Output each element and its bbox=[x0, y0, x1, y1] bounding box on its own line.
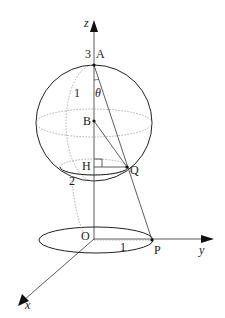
x-axis bbox=[24, 239, 94, 300]
label-q: Q bbox=[130, 163, 139, 177]
point-b bbox=[92, 119, 95, 122]
point-p bbox=[150, 238, 153, 241]
right-angle-mark bbox=[94, 159, 102, 167]
label-b: B bbox=[83, 114, 91, 128]
base-circle bbox=[39, 227, 153, 253]
label-o: O bbox=[81, 229, 90, 243]
y-axis-arrow-icon bbox=[201, 235, 214, 243]
line-ap bbox=[94, 65, 152, 240]
label-1-radius: 1 bbox=[74, 86, 80, 100]
label-p: P bbox=[154, 243, 161, 257]
label-h: H bbox=[82, 159, 91, 173]
line-bq bbox=[94, 121, 127, 167]
label-2: 2 bbox=[69, 174, 75, 188]
x-axis-label: x bbox=[24, 298, 31, 312]
label-1-base: 1 bbox=[120, 240, 126, 254]
z-axis-arrow-icon bbox=[90, 20, 98, 32]
label-a: A bbox=[96, 47, 105, 61]
label-theta: θ bbox=[95, 86, 101, 100]
sphere-diagram: z y x 3 A 1 θ B H Q 2 O 1 P bbox=[0, 0, 225, 318]
z-axis-label: z bbox=[83, 16, 89, 30]
point-a bbox=[92, 63, 95, 66]
y-axis-label: y bbox=[198, 243, 205, 257]
point-q bbox=[125, 165, 128, 168]
label-3: 3 bbox=[85, 47, 91, 61]
theta-arc bbox=[94, 79, 99, 80]
